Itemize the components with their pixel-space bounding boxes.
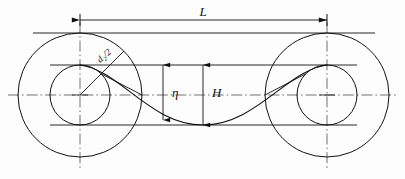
right-tangent-construction-line [265,74,306,95]
pulley-radius-leader-line [80,74,101,95]
left-tangent-construction-line [101,74,142,95]
drawing-canvas: L η H d₂/2 [0,0,405,179]
sag-depth-label: η [172,85,178,100]
technical-drawing-svg: L η H d₂/2 [0,0,405,179]
pulley-radius-label: d₂/2 [95,47,113,65]
span-length-label: L [198,4,206,19]
total-height-label: H [211,85,222,100]
